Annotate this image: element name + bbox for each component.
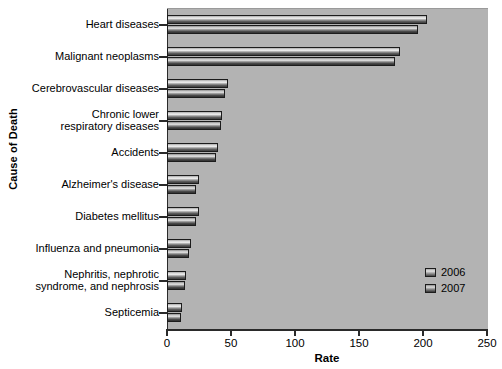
bar-2006 [167,143,218,152]
bar-2006 [167,239,191,248]
x-axis-tick [358,330,360,336]
legend-swatch-2007-icon [425,284,436,293]
bar-2007 [167,25,418,34]
legend-swatch-2006-icon [425,268,436,277]
bar-2007 [167,153,216,162]
bar-2007 [167,281,185,290]
x-axis-tick [486,330,488,336]
bar-2006 [167,271,186,280]
legend-item: 2006 [425,264,465,280]
x-axis-tick-label: 50 [208,337,254,349]
category-label: Accidents [111,146,159,159]
y-axis-tick [159,152,167,154]
x-axis-tick-label: 150 [336,337,382,349]
category-label: Heart diseases [86,18,159,31]
bar-2007 [167,121,221,130]
bar-chart: Cause of Death Heart diseasesMalignant n… [0,0,502,369]
bar-2006 [167,175,199,184]
x-axis-line [166,329,488,331]
bar-2007 [167,249,189,258]
category-label: Septicemia [105,306,159,319]
bar-2006 [167,15,427,24]
bar-2007 [167,185,196,194]
category-label: Influenza and pneumonia [35,242,159,255]
y-axis-title: Cause of Death [7,84,19,214]
y-axis-tick [159,24,167,26]
bar-2007 [167,313,181,322]
category-label: Nephritis, nephrotic syndrome, and nephr… [35,268,159,293]
bar-2007 [167,89,225,98]
legend-label: 2006 [441,267,465,278]
category-label: Diabetes mellitus [75,210,159,223]
legend-item: 2007 [425,280,465,296]
bar-2006 [167,47,400,56]
legend-label: 2007 [441,283,465,294]
y-axis-tick [159,248,167,250]
bar-2006 [167,111,222,120]
x-axis-title: Rate [167,352,487,364]
y-axis-tick [159,216,167,218]
legend: 2006 2007 [425,264,465,296]
y-axis-tick [159,88,167,90]
y-axis-tick [159,184,167,186]
category-label: Cerebrovascular diseases [32,82,159,95]
x-axis-tick [166,330,168,336]
x-axis-tick-label: 250 [464,337,502,349]
x-axis-tick [422,330,424,336]
bar-2007 [167,217,196,226]
y-axis-tick [159,120,167,122]
x-axis-tick-label: 100 [272,337,318,349]
bar-2006 [167,303,182,312]
bar-2006 [167,79,228,88]
bar-2007 [167,57,395,66]
y-axis-tick [159,280,167,282]
y-axis-tick [159,312,167,314]
category-label: Chronic lower respiratory diseases [61,108,159,133]
x-axis-tick [294,330,296,336]
x-axis-tick-label: 200 [400,337,446,349]
category-label: Malignant neoplasms [55,50,159,63]
category-label: Alzheimer's disease [62,178,159,191]
x-axis-tick-label: 0 [144,337,190,349]
bar-2006 [167,207,199,216]
y-axis-tick [159,56,167,58]
x-axis-tick [230,330,232,336]
